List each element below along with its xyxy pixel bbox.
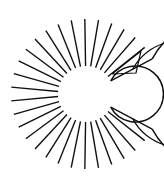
spoke-line [91,20,99,66]
ring-arc [152,19,164,169]
ring-arc [111,66,164,122]
radial-spokes [11,19,152,169]
spoke-line [96,24,112,68]
spoke-line [91,122,99,168]
spoke-line [14,74,59,87]
spoke-line [14,102,59,115]
spoke-line [11,97,58,101]
spoke-line [96,120,112,164]
ring-arc [133,41,164,147]
spoke-line [85,19,86,66]
spoke-line [85,122,86,169]
c-shape-radial-grid [0,0,164,179]
ring-arcs [111,19,164,169]
spoke-line [11,87,58,91]
